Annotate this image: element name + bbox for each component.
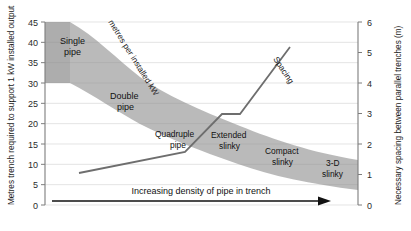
left-tick-10: 10 [28,160,38,170]
left-tick-20: 20 [28,119,38,129]
right-tick-3: 3 [367,109,372,119]
right-axis-tick-labels: 6 5 4 3 2 1 0 [367,18,372,211]
right-axis-title: Necessary spacing between parallel trenc… [394,25,403,205]
label-double-pipe-line2: pipe [117,102,134,112]
chart-svg: 45 40 35 30 25 20 15 10 5 0 6 5 4 3 2 1 … [0,0,411,231]
left-axis-title: Metres trench required to support 1 kW i… [7,5,16,205]
right-tick-2: 2 [367,140,372,150]
left-tick-15: 15 [28,140,38,150]
label-3d-slinky-line1: 3-D [326,158,340,168]
label-double-pipe-line1: Double [110,91,139,101]
left-tick-5: 5 [33,180,38,190]
label-3d-slinky-line2: slinky [322,169,344,179]
label-single-pipe-line2: pipe [64,47,81,57]
left-tick-0: 0 [33,201,38,211]
label-extended-slinky-line2: slinky [219,141,241,151]
left-tick-45: 45 [28,18,38,28]
right-tick-5: 5 [367,48,372,58]
right-tick-6: 6 [367,18,372,28]
left-tick-35: 35 [28,58,38,68]
label-single-pipe-line1: Single [60,36,85,46]
right-tick-1: 1 [367,170,372,180]
chart-container: 45 40 35 30 25 20 15 10 5 0 6 5 4 3 2 1 … [0,0,411,231]
label-quadruple-pipe-line2: pipe [170,140,186,150]
left-tick-25: 25 [28,99,38,109]
density-arrow-label: Increasing density of pipe in trench [131,186,270,196]
left-tick-40: 40 [28,38,38,48]
right-tick-0: 0 [367,201,372,211]
left-tick-30: 30 [28,79,38,89]
label-quadruple-pipe-line1: Quadruple [155,129,194,139]
left-axis-tick-labels: 45 40 35 30 25 20 15 10 5 0 [28,18,38,211]
right-tick-4: 4 [367,79,372,89]
label-extended-slinky-line1: Extended [211,130,247,140]
label-compact-slinky-line2: slinky [272,157,294,167]
label-compact-slinky-line1: Compact [265,146,299,156]
